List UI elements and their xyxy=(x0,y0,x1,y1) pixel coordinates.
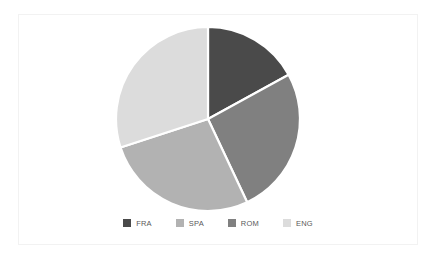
legend-swatch-icon xyxy=(176,219,184,227)
pie-chart xyxy=(113,24,303,214)
legend-label: ROM xyxy=(241,219,259,228)
legend-item-spa[interactable]: SPA xyxy=(176,219,204,228)
chart-legend: FRASPAROMENG xyxy=(19,211,417,235)
pie-chart-plot-area xyxy=(19,15,419,211)
chart-frame: FRASPAROMENG xyxy=(18,14,418,245)
legend-swatch-icon xyxy=(123,219,131,227)
pie-slice-group xyxy=(116,27,300,211)
legend-item-fra[interactable]: FRA xyxy=(123,219,152,228)
legend-swatch-icon xyxy=(228,219,236,227)
legend-swatch-icon xyxy=(283,219,291,227)
legend-label: FRA xyxy=(136,219,152,228)
legend-item-rom[interactable]: ROM xyxy=(228,219,259,228)
legend-item-eng[interactable]: ENG xyxy=(283,219,313,228)
legend-label: SPA xyxy=(189,219,204,228)
legend-label: ENG xyxy=(296,219,313,228)
